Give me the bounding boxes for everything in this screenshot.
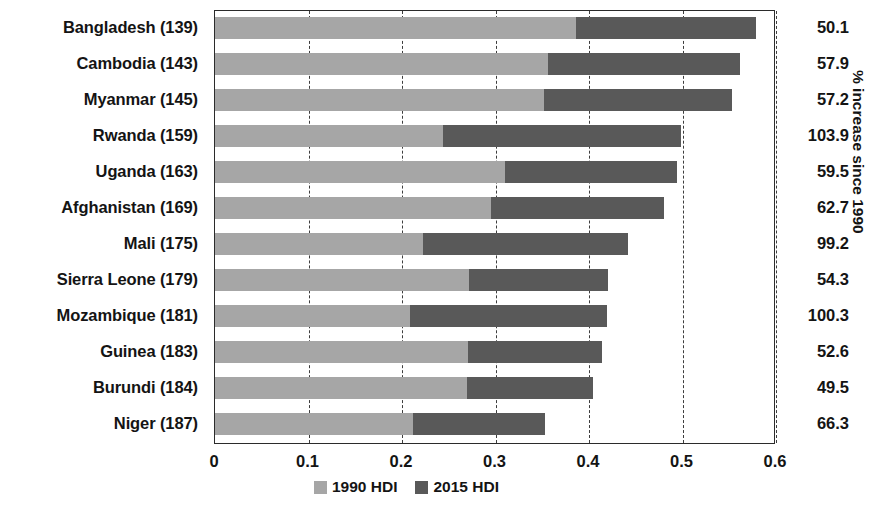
x-tick-label: 0.5 — [670, 452, 693, 471]
bar-row — [215, 233, 776, 255]
plot-area — [214, 10, 775, 444]
bar-segment-1990 — [215, 233, 423, 255]
bar-segment-1990 — [215, 89, 544, 111]
percent-increase-value: 62.7 — [781, 196, 849, 218]
category-label: Niger (187) — [0, 412, 206, 434]
bar-row — [215, 377, 776, 399]
percent-increase-value: 57.9 — [781, 52, 849, 74]
category-label: Afghanistan (169) — [0, 196, 206, 218]
bar-row — [215, 161, 776, 183]
bar-segment-1990 — [215, 413, 413, 435]
percent-increase-value: 59.5 — [781, 160, 849, 182]
gridline-0.6 — [776, 11, 777, 443]
bar-row — [215, 269, 776, 291]
legend-item-2015: 2015 HDI — [415, 478, 498, 496]
legend-label-1990: 1990 HDI — [332, 478, 397, 496]
percent-increase-value: 99.2 — [781, 232, 849, 254]
percent-increase-value: 49.5 — [781, 376, 849, 398]
hdi-bar-chart: Bangladesh (139)Cambodia (143)Myanmar (1… — [0, 0, 891, 512]
category-label: Sierra Leone (179) — [0, 268, 206, 290]
bar-segment-1990 — [215, 377, 467, 399]
bar-segment-1990 — [215, 269, 469, 291]
bar-segment-2015 — [468, 341, 602, 363]
bar-segment-1990 — [215, 161, 505, 183]
bar-segment-1990 — [215, 197, 491, 219]
category-axis: Bangladesh (139)Cambodia (143)Myanmar (1… — [0, 16, 206, 448]
category-label: Myanmar (145) — [0, 88, 206, 110]
bar-segment-1990 — [215, 53, 548, 75]
bar-row — [215, 89, 776, 111]
x-tick-label: 0.2 — [390, 452, 413, 471]
bar-segment-1990 — [215, 125, 443, 147]
percent-increase-value: 66.3 — [781, 412, 849, 434]
category-label: Bangladesh (139) — [0, 16, 206, 38]
legend-swatch-2015-icon — [415, 481, 428, 494]
percent-increase-value: 50.1 — [781, 16, 849, 38]
right-value-column: 50.157.957.2103.959.562.799.254.3100.352… — [781, 16, 849, 448]
category-label: Burundi (184) — [0, 376, 206, 398]
bar-segment-1990 — [215, 17, 576, 39]
x-tick-label: 0 — [209, 452, 218, 471]
bar-row — [215, 197, 776, 219]
legend-label-2015: 2015 HDI — [433, 478, 498, 496]
x-tick-label: 0.1 — [296, 452, 319, 471]
category-label: Mali (175) — [0, 232, 206, 254]
bar-segment-2015 — [576, 17, 756, 39]
bar-segment-1990 — [215, 305, 410, 327]
legend: 1990 HDI 2015 HDI — [314, 478, 499, 496]
percent-increase-value: 103.9 — [781, 124, 849, 146]
bar-segment-2015 — [491, 197, 664, 219]
category-label: Mozambique (181) — [0, 304, 206, 326]
bar-row — [215, 125, 776, 147]
bar-segment-2015 — [413, 413, 545, 435]
category-label: Rwanda (159) — [0, 124, 206, 146]
bar-segment-2015 — [467, 377, 592, 399]
category-label: Uganda (163) — [0, 160, 206, 182]
bar-row — [215, 305, 776, 327]
bar-series-container — [215, 11, 774, 443]
category-label: Guinea (183) — [0, 340, 206, 362]
bar-segment-2015 — [423, 233, 629, 255]
bar-segment-1990 — [215, 341, 468, 363]
bar-row — [215, 413, 776, 435]
bar-segment-2015 — [469, 269, 607, 291]
bar-segment-2015 — [410, 305, 606, 327]
right-axis-title-text: % increase since 1990 — [849, 70, 867, 234]
legend-item-1990: 1990 HDI — [314, 478, 397, 496]
bar-segment-2015 — [544, 89, 732, 111]
percent-increase-value: 100.3 — [781, 304, 849, 326]
bar-segment-2015 — [443, 125, 680, 147]
x-tick-label: 0.4 — [577, 452, 600, 471]
bar-row — [215, 53, 776, 75]
right-axis-title: % increase since 1990 — [855, 70, 879, 370]
category-label: Cambodia (143) — [0, 52, 206, 74]
bar-row — [215, 341, 776, 363]
bar-segment-2015 — [548, 53, 741, 75]
bar-row — [215, 17, 776, 39]
percent-increase-value: 54.3 — [781, 268, 849, 290]
percent-increase-value: 52.6 — [781, 340, 849, 362]
bar-segment-2015 — [505, 161, 677, 183]
x-axis-tick-labels: 00.10.20.30.40.50.6 — [214, 452, 775, 478]
legend-swatch-1990-icon — [314, 481, 327, 494]
percent-increase-value: 57.2 — [781, 88, 849, 110]
x-tick-label: 0.6 — [764, 452, 787, 471]
x-tick-label: 0.3 — [483, 452, 506, 471]
